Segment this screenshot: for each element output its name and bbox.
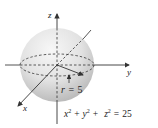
sphere-equation: x2+y2+z2=25 (63, 108, 132, 119)
radius-label: r = 5 (61, 84, 83, 95)
z-axis-label: z (47, 10, 52, 20)
sphere-diagram: z y x r = 5 x2+y2+z2=25 (0, 0, 158, 128)
x-axis-label: x (22, 103, 27, 113)
y-axis-label: y (126, 67, 131, 77)
x-axis-negative (84, 30, 91, 38)
